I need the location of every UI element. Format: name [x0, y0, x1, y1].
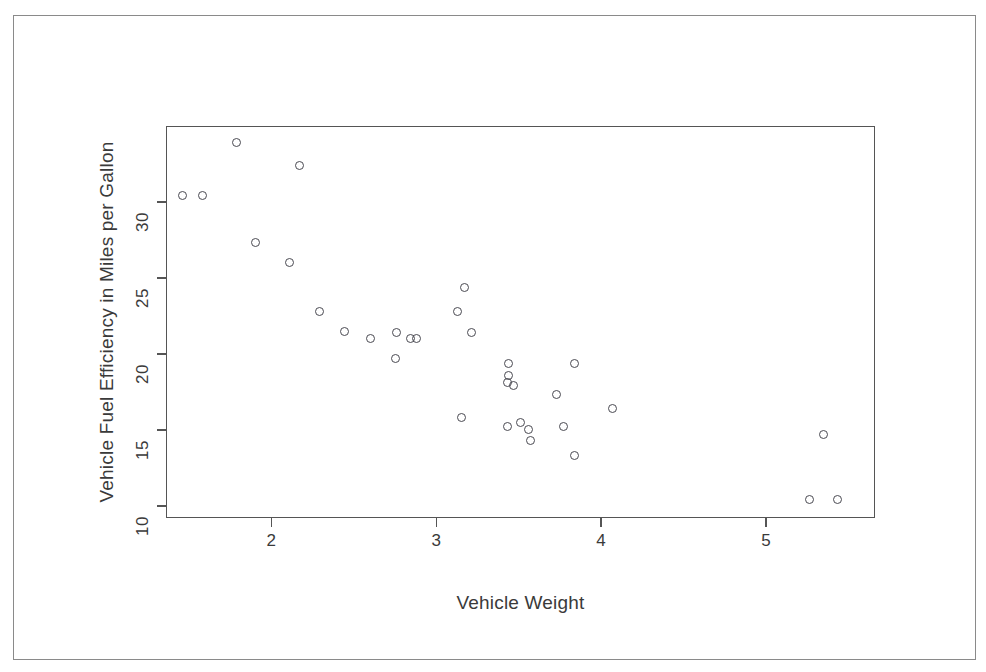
y-axis-title: Vehicle Fuel Efficiency in Miles per Gal… [96, 142, 118, 503]
figure-root: Vehicle Fuel Efficiency in Miles per Gal… [0, 0, 986, 672]
x-axis-title: Vehicle Weight [166, 592, 875, 614]
plot-frame [166, 126, 875, 518]
